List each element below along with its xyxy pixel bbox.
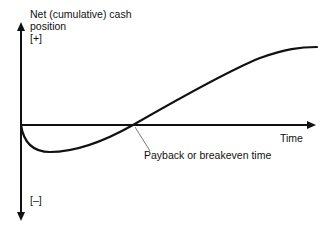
x-axis-label: Time: [280, 132, 303, 144]
y-axis-down-arrow-icon: [17, 212, 25, 221]
y-axis-label: Net (cumulative) cash: [30, 8, 132, 20]
payback-annotation: Payback or breakeven time: [144, 149, 271, 161]
y-axis-label-line2: position: [30, 20, 66, 32]
y-axis-negative-marker: [–]: [30, 194, 42, 206]
payback-leader-line: [135, 127, 150, 151]
x-axis-right-arrow-icon: [307, 121, 316, 129]
y-axis-up-arrow-icon: [17, 22, 25, 31]
cash-position-diagram: [0, 0, 332, 232]
y-axis-positive-marker: [+]: [30, 32, 42, 44]
cash-position-curve: [21, 47, 317, 152]
